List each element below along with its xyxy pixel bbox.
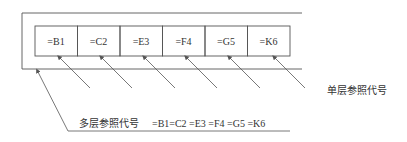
box-label-e3: =E3 [133,36,150,47]
box-label-k6: =K6 [260,36,278,47]
arrow-icon [145,58,175,88]
single-level-arrows [60,58,305,88]
box-label-f4: =F4 [175,36,191,47]
single-level-label: 单层参照代号 [327,84,387,96]
reference-designation-diagram: =B1 =C2 =E3 =F4 =G5 =K6 单层参照代号 多层参照代号 =B… [0,0,407,142]
multi-level-code: =B1=C2 =E3 =F4 =G5 =K6 [152,118,265,129]
arrow-icon [102,58,132,88]
box-label-g5: =G5 [217,36,235,47]
multi-level-label: 多层参照代号 [79,117,139,129]
arrow-icon [230,58,260,88]
arrow-icon [187,58,217,88]
box-label-c2: =C2 [90,36,107,47]
arrow-icon [275,58,305,88]
box-label-b1: =B1 [47,36,64,47]
code-boxes: =B1 =C2 =E3 =F4 =G5 =K6 [35,26,290,56]
arrow-icon [60,58,90,88]
